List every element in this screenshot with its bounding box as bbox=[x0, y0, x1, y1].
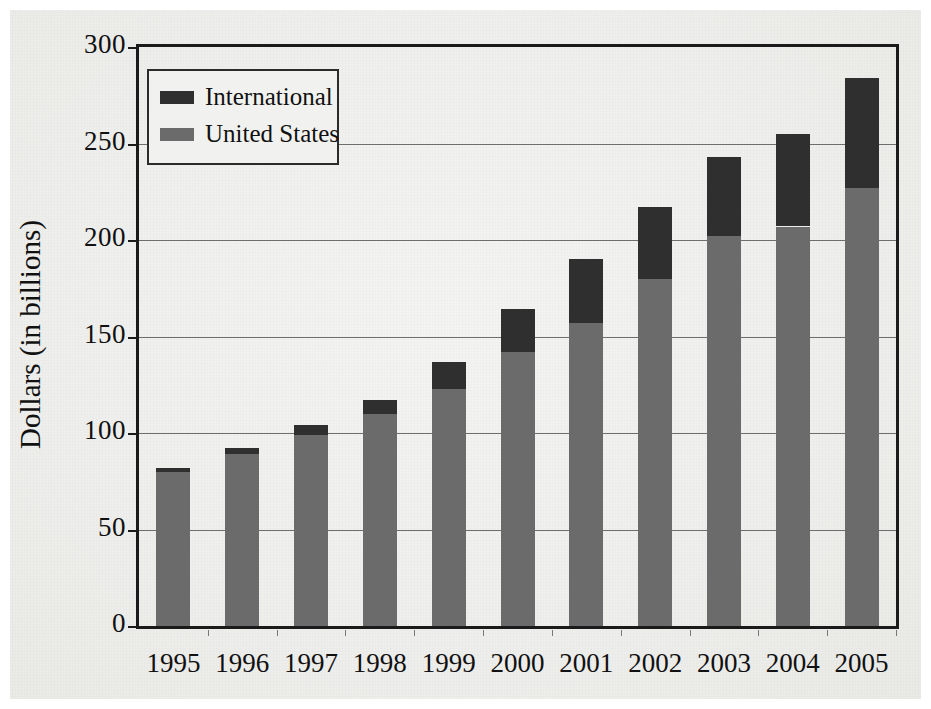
y-tick-label: 200 bbox=[46, 222, 126, 253]
bar-2004 bbox=[776, 134, 810, 626]
bar-segment-united-states bbox=[776, 227, 810, 627]
page-edge-bottom bbox=[0, 699, 931, 709]
x-tick-mark bbox=[345, 630, 346, 636]
bar-segment-international bbox=[638, 207, 672, 278]
y-axis-title: Dollars (in billions) bbox=[14, 100, 47, 570]
chart-legend: International United States bbox=[147, 69, 339, 165]
x-tick-mark bbox=[896, 630, 897, 636]
bar-2003 bbox=[707, 157, 741, 626]
bar-segment-united-states bbox=[845, 188, 879, 626]
bar-segment-international bbox=[569, 259, 603, 323]
bar-segment-international bbox=[776, 134, 810, 227]
y-tick-label: 50 bbox=[46, 512, 126, 543]
bar-2000 bbox=[501, 309, 535, 626]
bar-segment-united-states bbox=[707, 236, 741, 626]
page-edge-top bbox=[0, 0, 931, 10]
y-tick-label: 100 bbox=[46, 415, 126, 446]
legend-swatch-international bbox=[160, 91, 194, 104]
legend-label-united-states: United States bbox=[205, 120, 339, 148]
bar-segment-united-states bbox=[225, 454, 259, 626]
bar-segment-united-states bbox=[638, 279, 672, 626]
bar-segment-united-states bbox=[363, 414, 397, 626]
x-tick-mark bbox=[208, 630, 209, 636]
bar-segment-international bbox=[707, 157, 741, 236]
y-tick-label: 300 bbox=[46, 29, 126, 60]
x-tick-mark bbox=[758, 630, 759, 636]
bar-1996 bbox=[225, 448, 259, 626]
legend-label-international: International bbox=[205, 83, 333, 111]
bar-1999 bbox=[432, 362, 466, 626]
x-tick-mark bbox=[827, 630, 828, 636]
bar-segment-international bbox=[432, 362, 466, 389]
page-edge-left bbox=[0, 0, 10, 709]
bar-segment-international bbox=[501, 309, 535, 351]
x-tick-mark bbox=[621, 630, 622, 636]
y-tick-label: 150 bbox=[46, 319, 126, 350]
x-tick-mark bbox=[690, 630, 691, 636]
legend-item-united-states: United States bbox=[160, 119, 339, 149]
x-tick-mark bbox=[414, 630, 415, 636]
page-edge-right bbox=[921, 0, 931, 709]
bar-1995 bbox=[156, 468, 190, 626]
bar-segment-international bbox=[294, 425, 328, 435]
chart-page: Dollars (in billions) 050100150200250300… bbox=[0, 0, 931, 709]
legend-swatch-united-states bbox=[160, 128, 194, 141]
bar-1997 bbox=[294, 425, 328, 626]
legend-item-international: International bbox=[160, 82, 333, 112]
y-tick-label: 250 bbox=[46, 126, 126, 157]
bar-segment-united-states bbox=[156, 472, 190, 626]
bar-1998 bbox=[363, 400, 397, 626]
bar-2005 bbox=[845, 78, 879, 626]
bar-segment-united-states bbox=[569, 323, 603, 626]
x-tick-mark bbox=[277, 630, 278, 636]
x-tick-mark bbox=[552, 630, 553, 636]
bar-segment-international bbox=[845, 78, 879, 188]
bar-segment-united-states bbox=[432, 389, 466, 626]
x-tick-mark bbox=[483, 630, 484, 636]
y-tick-label: 0 bbox=[46, 608, 126, 639]
y-axis-tick-labels: 050100150200250300 bbox=[46, 0, 126, 709]
bar-segment-international bbox=[363, 400, 397, 414]
bar-2001 bbox=[569, 259, 603, 626]
bar-2002 bbox=[638, 207, 672, 626]
bar-segment-united-states bbox=[501, 352, 535, 626]
bar-segment-united-states bbox=[294, 435, 328, 626]
x-tick-label: 2005 bbox=[822, 648, 902, 679]
